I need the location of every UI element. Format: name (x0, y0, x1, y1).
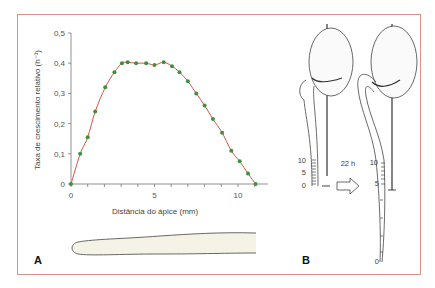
x-axis-title: Distância do ápice (mm) (112, 207, 199, 216)
x-tick-label: 0 (69, 191, 74, 200)
panel-label-b: B (302, 254, 310, 266)
scale-left-10: 10 (298, 156, 306, 165)
y-tick-label: 0,5 (54, 29, 66, 38)
data-point (69, 182, 73, 186)
root-right-outer (358, 74, 381, 262)
data-point (246, 171, 250, 175)
data-point (186, 79, 190, 83)
panel-label-a: A (34, 254, 42, 266)
data-point (170, 64, 174, 68)
data-point (194, 91, 198, 95)
scale-right-0: 0 (375, 257, 379, 266)
seed-left (309, 28, 353, 96)
scale-left-0: 0 (302, 181, 306, 190)
arrow-label: 22 h (341, 159, 356, 168)
data-point (211, 117, 215, 121)
arrow-right-icon (337, 178, 359, 194)
y-tick-label: 0,2 (54, 120, 66, 129)
data-point (103, 85, 107, 89)
data-point (93, 110, 97, 114)
data-point (134, 61, 138, 65)
y-tick-label: 0,4 (54, 59, 66, 68)
scale-left-5: 5 (302, 168, 306, 177)
data-point (220, 131, 224, 135)
growth-curve (71, 62, 256, 184)
x-tick-label: 10 (234, 191, 243, 200)
data-point (112, 70, 116, 74)
seedling-after: 10 5 0 (358, 24, 417, 266)
scale-right-5: 5 (375, 179, 379, 188)
data-points (69, 60, 258, 186)
data-point (78, 152, 82, 156)
data-point (162, 60, 166, 64)
data-point (178, 70, 182, 74)
data-point (126, 60, 130, 64)
scale-right-10: 10 (370, 158, 378, 167)
root-left-inner (314, 86, 318, 186)
y-ticks: 00,10,20,30,40,5 (54, 29, 71, 189)
x-ticks: 0510 (69, 184, 255, 200)
x-tick-label: 5 (152, 191, 157, 200)
y-axis-title: Taxa de crescimento relativo (h⁻¹) (33, 50, 42, 170)
data-point (153, 63, 157, 67)
chart-axes: 00,10,20,30,40,5 0510 (54, 29, 268, 200)
y-tick-label: 0,3 (54, 89, 66, 98)
data-point (203, 103, 207, 107)
data-point (86, 135, 90, 139)
scale-marks-left (312, 160, 316, 184)
data-point (238, 159, 242, 163)
y-tick-label: 0,1 (54, 150, 66, 159)
figure: 00,10,20,30,40,5 0510 Taxa de cresciment… (0, 0, 435, 288)
data-point (144, 61, 148, 65)
data-point (229, 149, 233, 153)
data-point (120, 61, 124, 65)
y-tick-label: 0 (61, 180, 66, 189)
seed-right (371, 26, 417, 98)
data-point (254, 182, 258, 186)
